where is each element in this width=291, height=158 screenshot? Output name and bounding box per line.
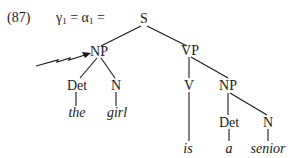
word-is: is xyxy=(183,142,192,156)
node-subject-det: Det xyxy=(67,79,87,93)
node-object-n: N xyxy=(263,116,273,130)
example-number: (87) xyxy=(7,11,30,25)
alpha-symbol: α xyxy=(82,10,89,25)
equals-sign-1: = xyxy=(70,10,78,25)
node-vp: VP xyxy=(181,44,199,58)
node-object-np: NP xyxy=(219,79,237,93)
word-the: the xyxy=(68,106,85,120)
node-v: V xyxy=(184,79,194,93)
node-object-det: Det xyxy=(219,116,239,130)
node-subject-np: NP xyxy=(90,45,108,59)
lightning-arrow-icon xyxy=(36,55,85,66)
word-senior: senior xyxy=(251,142,286,156)
node-subject-n: N xyxy=(111,79,121,93)
alpha-subscript: 1 xyxy=(89,16,94,26)
equals-sign-2: = xyxy=(97,10,105,25)
word-girl: girl xyxy=(107,106,127,120)
node-s: S xyxy=(140,12,148,26)
word-a: a xyxy=(226,142,233,156)
gamma-subscript: 1 xyxy=(62,16,67,26)
equation: γ1 = α1 = xyxy=(56,11,105,28)
